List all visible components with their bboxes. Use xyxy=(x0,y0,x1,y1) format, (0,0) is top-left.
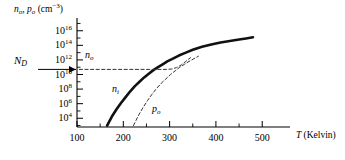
y-tick-label: 104 xyxy=(30,113,72,123)
axes xyxy=(77,18,290,127)
curve-ni xyxy=(107,37,253,125)
y-tick-label: 1014 xyxy=(30,40,72,50)
y-axis-title: no, po (cm−3) xyxy=(14,5,63,15)
y-tick-label: 1016 xyxy=(30,26,72,36)
x-axis-title: T (Kelvin) xyxy=(296,131,336,141)
curve-po xyxy=(133,56,198,125)
y-tick-label: 108 xyxy=(30,84,72,94)
x-tick-label: 500 xyxy=(242,133,282,143)
curve-label-ni: ni xyxy=(112,84,119,94)
y-tick-label: 1012 xyxy=(30,55,72,65)
x-tick-label: 100 xyxy=(57,133,97,143)
semiconductor-carrier-concentration-figure: no, po (cm−3) T (Kelvin) ND no ni po 104… xyxy=(0,0,345,160)
x-tick-label: 200 xyxy=(103,133,143,143)
y-tick-label: 1010 xyxy=(30,70,72,80)
data-series xyxy=(79,37,253,125)
x-tick-label: 400 xyxy=(196,133,236,143)
curve-label-no: no xyxy=(85,50,94,60)
nd-annotation-label: ND xyxy=(14,55,27,66)
curve-label-po: po xyxy=(152,104,161,114)
y-tick-label: 106 xyxy=(30,99,72,109)
x-tick-label: 300 xyxy=(150,133,190,143)
